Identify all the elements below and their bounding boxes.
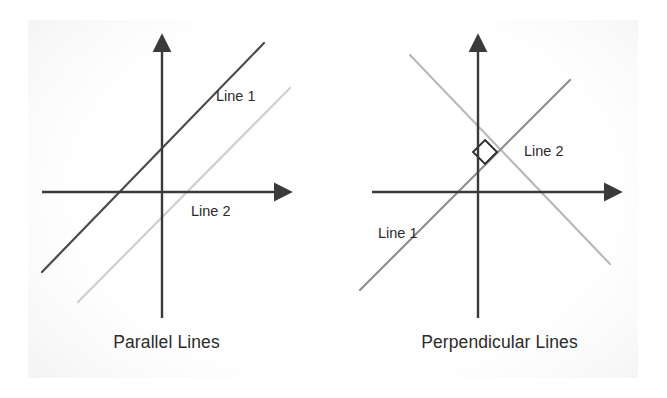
- parallel-line-1-label: Line 1: [216, 88, 256, 104]
- parallel-lines-figure: Line 1 Line 2 Parallel Lines: [0, 0, 333, 398]
- parallel-line-2: [78, 88, 290, 302]
- parallel-lines-caption: Parallel Lines: [0, 332, 333, 353]
- parallel-line-2-label: Line 2: [191, 203, 231, 219]
- perpendicular-line-1-label: Line 1: [378, 225, 418, 241]
- perpendicular-line-2-label: Line 2: [524, 143, 564, 159]
- perpendicular-lines-caption: Perpendicular Lines: [333, 332, 666, 353]
- figure-canvas: Line 1 Line 2 Parallel Lines: [0, 0, 667, 398]
- parallel-line-1: [42, 43, 264, 272]
- perpendicular-line-2: [410, 55, 610, 264]
- perpendicular-lines-figure: Line 1 Line 2 Perpendicular Lines: [333, 0, 666, 398]
